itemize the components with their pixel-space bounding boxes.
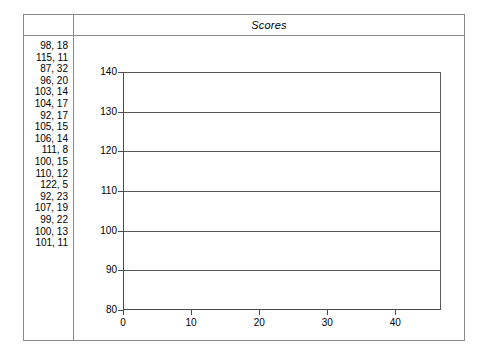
list-item: 104, 17 <box>24 98 68 110</box>
x-axis-tick-label: 20 <box>244 317 274 328</box>
list-item: 115, 11 <box>24 52 68 64</box>
score-pair-list: 98, 18115, 1187, 3296, 20103, 14104, 179… <box>24 40 73 249</box>
x-axis-tick-label: 30 <box>312 317 342 328</box>
list-item: 99, 22 <box>24 214 68 226</box>
list-item: 103, 14 <box>24 86 68 98</box>
list-item: 87, 32 <box>24 63 68 75</box>
scatter-plot: 8090100110120130140010203040 <box>74 36 466 342</box>
plot-area <box>123 72 441 310</box>
table-body-row: 98, 18115, 1187, 3296, 20103, 14104, 179… <box>24 36 464 340</box>
list-item: 96, 20 <box>24 75 68 87</box>
gridline-horizontal <box>124 151 440 152</box>
y-axis-tick <box>118 191 123 192</box>
x-axis-tick-label: 10 <box>176 317 206 328</box>
x-axis-tick-label: 40 <box>380 317 410 328</box>
y-axis-tick-label: 110 <box>77 186 117 196</box>
list-item: 101, 11 <box>24 237 68 249</box>
list-item: 100, 15 <box>24 156 68 168</box>
x-axis-tick-label: 0 <box>108 317 138 328</box>
page-title: Scores <box>251 19 286 31</box>
y-axis-tick-label: 80 <box>77 305 117 315</box>
chart-table-frame: Scores 98, 18115, 1187, 3296, 20103, 141… <box>23 14 465 341</box>
list-item: 107, 19 <box>24 202 68 214</box>
list-item: 105, 15 <box>24 121 68 133</box>
y-axis-tick <box>118 112 123 113</box>
list-item: 111, 8 <box>24 144 68 156</box>
x-axis-tick <box>327 310 328 315</box>
list-item: 92, 23 <box>24 191 68 203</box>
gridline-horizontal <box>124 112 440 113</box>
y-axis-tick <box>118 270 123 271</box>
list-item: 122, 5 <box>24 179 68 191</box>
data-values-cell: 98, 18115, 1187, 3296, 20103, 14104, 179… <box>24 36 74 340</box>
list-item: 100, 13 <box>24 226 68 238</box>
plot-cell: 8090100110120130140010203040 <box>74 36 464 340</box>
y-axis-tick <box>118 72 123 73</box>
list-item: 110, 12 <box>24 168 68 180</box>
x-axis-tick <box>123 310 124 315</box>
gridline-horizontal <box>124 231 440 232</box>
header-title-cell: Scores <box>74 15 464 35</box>
list-item: 98, 18 <box>24 40 68 52</box>
header-left-cell <box>24 15 74 35</box>
y-axis-tick-label: 140 <box>77 67 117 77</box>
y-axis-tick-label: 100 <box>77 226 117 236</box>
table-header-row: Scores <box>24 15 464 36</box>
y-axis-tick-label: 90 <box>77 265 117 275</box>
y-axis-tick-label: 120 <box>77 146 117 156</box>
y-axis-tick-label: 130 <box>77 107 117 117</box>
list-item: 92, 17 <box>24 110 68 122</box>
list-item: 106, 14 <box>24 133 68 145</box>
x-axis-tick <box>395 310 396 315</box>
gridline-horizontal <box>124 72 440 73</box>
y-axis-tick <box>118 231 123 232</box>
y-axis-tick <box>118 151 123 152</box>
gridline-horizontal <box>124 270 440 271</box>
x-axis-tick <box>191 310 192 315</box>
x-axis-tick <box>259 310 260 315</box>
gridline-horizontal <box>124 191 440 192</box>
